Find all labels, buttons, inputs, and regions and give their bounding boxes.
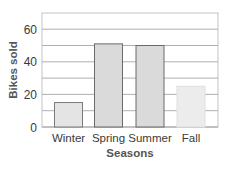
bar-spring <box>95 44 123 127</box>
bar-summer <box>136 46 164 128</box>
x-axis-title: Seasons <box>106 147 153 159</box>
y-axis-ticks: 0204060 <box>24 23 38 135</box>
y-tick-label: 40 <box>24 55 38 69</box>
y-tick-label: 0 <box>30 121 37 135</box>
bar-chart: 0204060 WinterSpringSummerFall Seasons B… <box>0 0 225 174</box>
bars <box>55 44 206 127</box>
x-category-label: Fall <box>182 132 201 144</box>
bar-winter <box>55 103 83 127</box>
bar-fall <box>177 86 205 127</box>
y-tick-label: 60 <box>24 23 38 37</box>
x-category-label: Summer <box>128 132 172 144</box>
x-category-label: Winter <box>52 132 85 144</box>
x-category-label: Spring <box>92 132 125 144</box>
y-axis-title: Bikes sold <box>7 41 19 99</box>
y-tick-label: 20 <box>24 88 38 102</box>
x-axis-categories: WinterSpringSummerFall <box>52 132 200 144</box>
